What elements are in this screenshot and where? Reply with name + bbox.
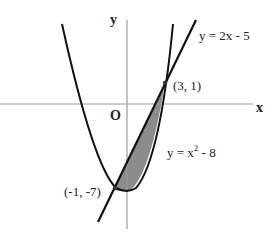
- point-label-lower: (-1, -7): [64, 184, 101, 199]
- y-axis-label: y: [110, 12, 117, 27]
- origin-label: O: [110, 108, 121, 123]
- point-label-upper: (3, 1): [173, 78, 201, 93]
- line-equation-label: y = 2x - 5: [199, 28, 250, 43]
- intersection-point-upper: [163, 81, 167, 85]
- parabola-label-main: y = x: [167, 145, 194, 160]
- graph-figure: y x O y = 2x - 5 y = x2 - 8 (3, 1) (-1, …: [0, 0, 279, 237]
- parabola-equation-label: y = x2 - 8: [167, 143, 216, 160]
- intersection-point-lower: [113, 186, 117, 190]
- x-axis-label: x: [256, 100, 263, 115]
- parabola-label-tail: - 8: [198, 145, 215, 160]
